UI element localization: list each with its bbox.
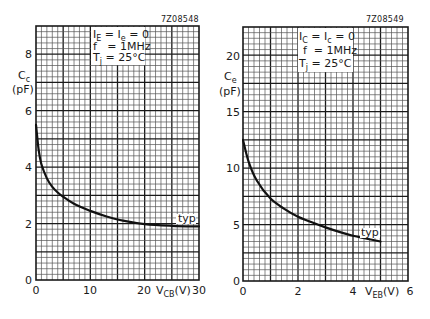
- y-tick-6: 6: [25, 105, 32, 118]
- figure-code: 7Z08548: [161, 15, 199, 24]
- y-tick-5: 5: [233, 219, 240, 232]
- y-axis-label: Cc: [18, 69, 30, 84]
- condition-current: IC = Ic = 0: [299, 30, 355, 45]
- x-tick-0: 0: [33, 284, 40, 297]
- condition-frequency: f = 1MHz: [303, 44, 357, 57]
- x-tick-30: 30: [192, 284, 206, 297]
- x-tick-20: 20: [137, 284, 151, 297]
- y-tick-0: 0: [25, 274, 32, 287]
- y-tick-2: 2: [25, 218, 32, 231]
- chart-collector-capacitance: IE = Ie = 0 f = 1MHz Tj = 25°C 7Z08548 0…: [12, 15, 206, 299]
- x-tick-4: 4: [350, 285, 357, 298]
- y-axis-unit: (pF): [12, 83, 34, 96]
- y-tick-10: 10: [226, 162, 240, 175]
- y-tick-15: 15: [226, 106, 240, 119]
- curve-label-typ: typ: [178, 212, 196, 225]
- x-tick-0: 0: [240, 285, 247, 298]
- y-tick-4: 4: [25, 161, 32, 174]
- y-tick-20: 20: [226, 50, 240, 63]
- chart-canvas: IE = Ie = 0 f = 1MHz Tj = 25°C 7Z08548 0…: [0, 0, 430, 319]
- x-tick-10: 10: [83, 284, 97, 297]
- x-axis-label: VCB(V): [156, 284, 191, 299]
- y-tick-8: 8: [25, 48, 32, 61]
- x-axis-label: VEB(V): [365, 285, 399, 300]
- x-tick-2: 2: [295, 285, 302, 298]
- chart-emitter-capacitance: IC = Ic = 0 f = 1MHz Tj = 25°C 7Z08549 0…: [219, 15, 414, 300]
- figure-code: 7Z08549: [366, 15, 404, 24]
- x-tick-6: 6: [407, 285, 414, 298]
- curve-label-typ: typ: [361, 226, 379, 239]
- y-axis-unit: (pF): [219, 85, 241, 98]
- y-axis-label: Ce: [224, 70, 237, 85]
